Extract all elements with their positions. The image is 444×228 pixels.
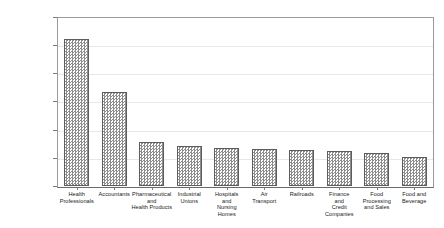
x-tick-mark (339, 187, 340, 190)
x-tick-mark (114, 187, 115, 190)
x-tick-mark (414, 187, 415, 190)
bars-container (58, 18, 433, 186)
bar[interactable] (364, 153, 389, 186)
y-tick-mark (53, 45, 57, 46)
bar[interactable] (214, 148, 239, 186)
bar[interactable] (139, 142, 164, 186)
x-tick-mark (152, 187, 153, 190)
bar[interactable] (177, 146, 202, 186)
x-tick-mark (77, 187, 78, 190)
x-tick-mark (227, 187, 228, 190)
bar-slot (58, 18, 96, 186)
bar-chart: $1,200,000 $1,000,000 $800,000 $600,000 … (0, 0, 444, 228)
bar[interactable] (402, 157, 427, 186)
bar-slot (396, 18, 434, 186)
x-tick-slot: Food andBeverage (396, 187, 434, 227)
x-axis-category-label: Food andBeverage (390, 191, 440, 204)
y-tick-mark (53, 101, 57, 102)
bar[interactable] (252, 149, 277, 186)
x-tick-mark (264, 187, 265, 190)
bar-slot (171, 18, 209, 186)
bar[interactable] (64, 39, 89, 186)
bar[interactable] (102, 92, 127, 187)
bar-slot (208, 18, 246, 186)
bar-slot (133, 18, 171, 186)
x-tick-mark (302, 187, 303, 190)
x-tick-mark (377, 187, 378, 190)
bar-slot (358, 18, 396, 186)
y-tick-mark (53, 186, 57, 187)
y-tick-mark (53, 17, 57, 18)
x-axis-labels: HealthProfessionalsAccountantsPharmaceut… (58, 187, 433, 227)
bar-slot (283, 18, 321, 186)
y-tick-mark (53, 158, 57, 159)
bar[interactable] (327, 151, 352, 186)
x-tick-mark (189, 187, 190, 190)
bar[interactable] (289, 150, 314, 186)
bar-slot (246, 18, 284, 186)
bar-slot (96, 18, 134, 186)
y-tick-mark (53, 130, 57, 131)
bar-slot (321, 18, 359, 186)
y-tick-mark (53, 73, 57, 74)
